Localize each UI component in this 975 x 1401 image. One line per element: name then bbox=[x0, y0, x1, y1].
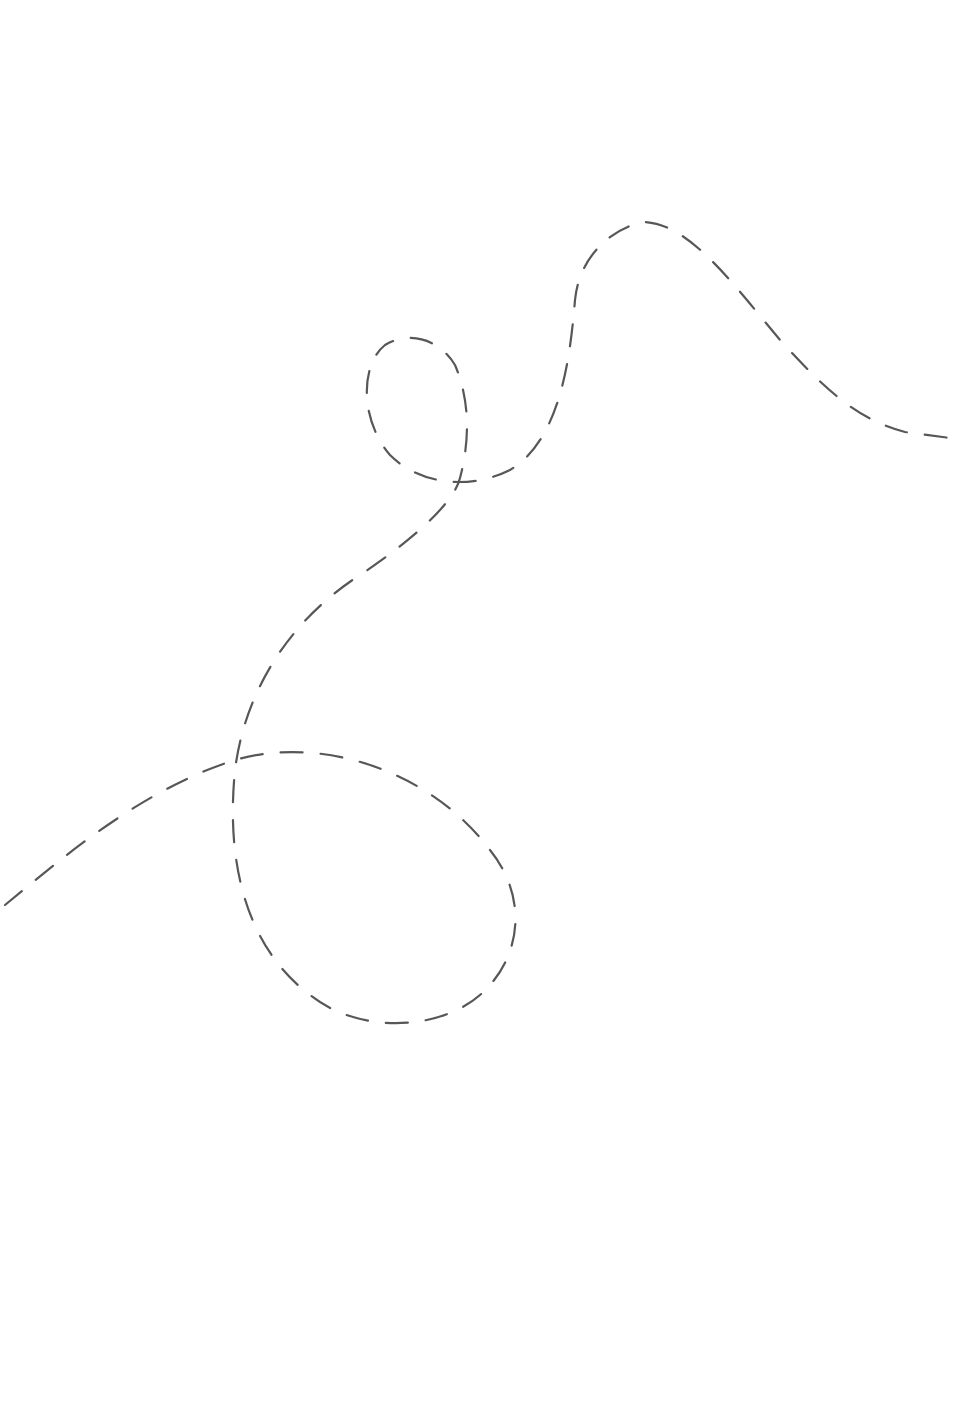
paper-canvas bbox=[0, 0, 975, 1401]
dashed-path bbox=[5, 222, 950, 1023]
dashed-line-drawing bbox=[0, 0, 975, 1401]
